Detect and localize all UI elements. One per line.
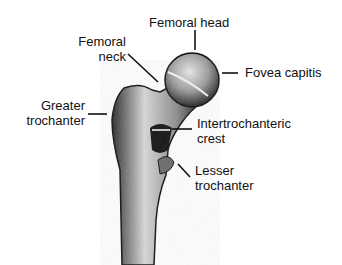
label-lesser-trochanter-line2: trochanter <box>195 179 254 193</box>
label-greater-trochanter-line1: Greater <box>10 99 85 113</box>
label-lesser-trochanter-line1: Lesser <box>195 164 234 178</box>
label-greater-trochanter-line2: trochanter <box>10 114 85 128</box>
femur-illustration <box>0 0 342 265</box>
label-fovea-capitis: Fovea capitis <box>245 66 322 80</box>
femur-bone <box>100 53 220 265</box>
label-femoral-neck-line1: Femoral <box>66 35 126 49</box>
label-intertrochanteric-crest-line2: crest <box>197 132 225 146</box>
label-intertrochanteric-crest-line1: Intertrochanteric <box>197 117 291 131</box>
label-femoral-neck-line2: neck <box>66 50 126 64</box>
label-femoral-head: Femoral head <box>149 16 229 30</box>
